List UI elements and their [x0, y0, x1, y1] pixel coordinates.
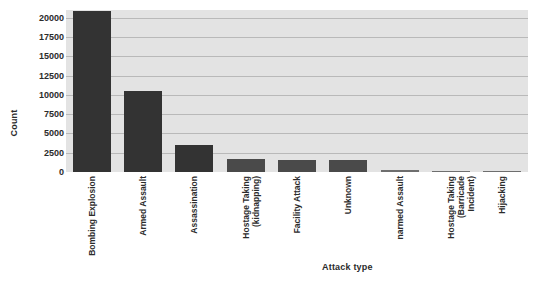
bar-chart: Count 0250050007500100001250015000175002… — [0, 0, 544, 296]
x-axis-tick-label: Hijacking — [497, 176, 507, 286]
x-axis-tick-label: Hostage Taking (Barricade Incident) — [446, 176, 476, 286]
x-axis-title: Attack type — [322, 262, 373, 272]
x-axis-tick-label: Facility Attack — [292, 176, 302, 286]
x-axis-tick-label: Assassination — [189, 176, 199, 286]
x-axis-tick-label: Armed Assault — [138, 176, 148, 286]
x-axis-tick-label: narmed Assault — [395, 176, 405, 286]
x-axis-tick-label: Hostage Taking (kidnapping) — [241, 176, 261, 286]
x-axis-tick-labels: Bombing ExplosionArmed AssaultAssassinat… — [0, 0, 544, 296]
x-axis-tick-label: Bombing Explosion — [87, 176, 97, 286]
